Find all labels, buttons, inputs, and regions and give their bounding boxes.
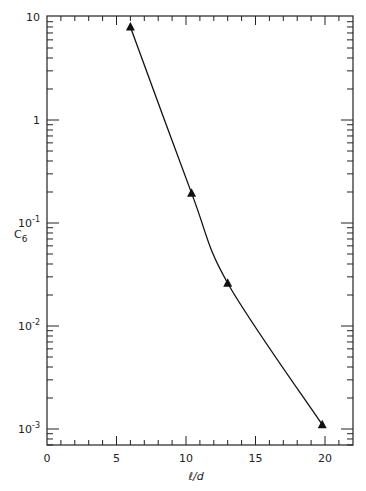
y-tick-labels: 10110-110-210-3 — [18, 11, 40, 436]
y-tick-label: 10-3 — [18, 421, 40, 436]
y-tick-label: 1 — [33, 114, 40, 127]
data-point-triangle — [187, 188, 196, 197]
y-tick-label: 10-2 — [18, 318, 40, 333]
axis-ticks — [47, 16, 353, 445]
log-plot: 05101520 10110-110-210-3 ℓ/d C6 — [0, 0, 366, 491]
x-tick-label: 10 — [179, 452, 193, 465]
x-tick-labels: 05101520 — [44, 452, 333, 465]
data-point-triangle — [126, 22, 135, 31]
y-axis-label: C6 — [14, 228, 28, 244]
x-axis-label: ℓ/d — [187, 470, 204, 483]
data-points — [126, 22, 327, 428]
data-point-triangle — [223, 278, 232, 287]
plot-frame — [47, 16, 353, 445]
fit-curve — [130, 27, 322, 425]
y-axis-label-sub: 6 — [22, 234, 28, 244]
x-tick-label: 5 — [113, 452, 120, 465]
y-tick-label: 10 — [26, 11, 40, 24]
x-tick-label: 20 — [318, 452, 332, 465]
x-tick-label: 0 — [44, 452, 51, 465]
x-tick-label: 15 — [249, 452, 263, 465]
